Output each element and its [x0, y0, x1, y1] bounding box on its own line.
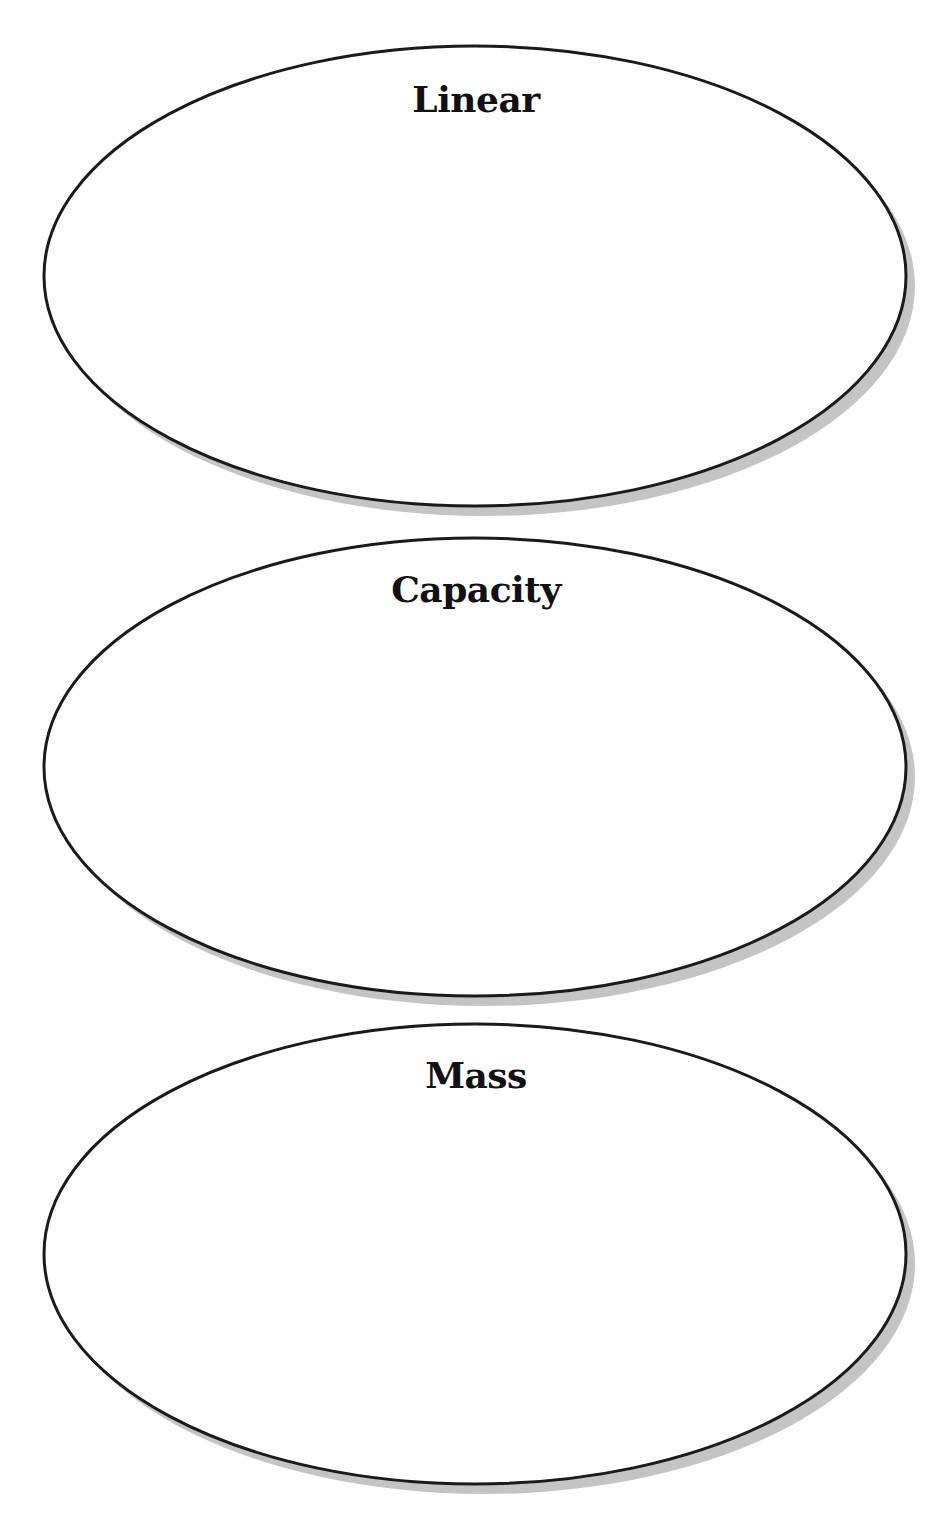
oval-mass-title: Mass: [0, 1054, 952, 1096]
oval-capacity-title: Capacity: [0, 568, 952, 610]
oval-linear-title: Linear: [0, 78, 952, 120]
oval-diagram-canvas: [0, 0, 952, 1514]
